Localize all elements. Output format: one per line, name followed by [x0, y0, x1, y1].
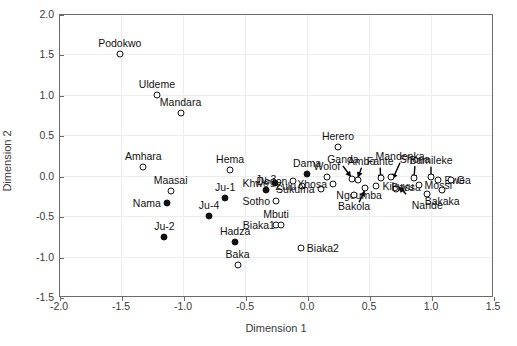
data-point-ju-2	[161, 234, 168, 241]
point-label-bakaka: Bakaka	[425, 196, 460, 207]
data-point-hadza	[232, 239, 239, 246]
point-label-ju-2: Ju-2	[154, 221, 174, 232]
point-label-bamileke: Bamileke	[409, 155, 452, 166]
point-label-herero: Herero	[322, 130, 354, 141]
data-point-nama	[163, 200, 170, 207]
data-point-hema	[227, 167, 234, 174]
point-label-mandara: Mandara	[160, 97, 201, 108]
data-point-ju-4	[206, 213, 213, 220]
point-label-hema: Hema	[216, 154, 244, 165]
point-label-podokwo: Podokwo	[98, 37, 141, 48]
data-point-mossi	[415, 182, 422, 189]
point-label-biaka1: Biaka1	[243, 220, 275, 231]
data-point-bakola	[351, 192, 358, 199]
data-point-baka	[234, 261, 241, 268]
data-point-mandenka	[388, 174, 395, 181]
data-point-biaka1	[277, 222, 284, 229]
data-point-xhosa	[330, 180, 337, 187]
point-label-ju-4: Ju-4	[199, 200, 219, 211]
data-point-ju-1	[222, 194, 229, 201]
point-label-mbuti: Mbuti	[263, 209, 289, 220]
point-label-ju-1: Ju-1	[215, 181, 235, 192]
data-point-biaka2	[297, 245, 304, 252]
point-label-nama: Nama	[133, 198, 161, 209]
data-point-fante	[378, 175, 385, 182]
data-point-dama	[304, 171, 311, 178]
point-label-biaka2: Biaka2	[307, 243, 339, 254]
data-point-bakaka	[439, 187, 446, 194]
point-label-maasai: Maasai	[154, 175, 188, 186]
point-label-baka: Baka	[226, 248, 250, 259]
data-point-sotho	[273, 197, 280, 204]
point-label-uldeme: Uldeme	[139, 79, 175, 90]
data-point-amhara	[140, 163, 147, 170]
data-point-podokwo	[116, 50, 123, 57]
point-label-xhosa: Xhosa	[297, 179, 327, 190]
data-point-bamileke	[428, 174, 435, 181]
data-point-ga	[447, 176, 454, 183]
point-label-ga: Ga	[457, 175, 471, 186]
point-label-bakola: Bakola	[338, 201, 370, 212]
point-label-amhara: Amhara	[125, 151, 162, 162]
point-label-sotho: Sotho	[243, 196, 270, 207]
data-point-kikuyu	[373, 183, 380, 190]
scatter-plot-figure: Dimension 2 Dimension 1 -2.0-1.5-1.0-0.5…	[0, 0, 517, 346]
data-point-shona	[410, 175, 417, 182]
data-point-ewe	[435, 176, 442, 183]
data-point-ambo	[354, 176, 361, 183]
data-point-mandara	[177, 110, 184, 117]
data-point-maasai	[167, 188, 174, 195]
data-point-herero	[335, 143, 342, 150]
